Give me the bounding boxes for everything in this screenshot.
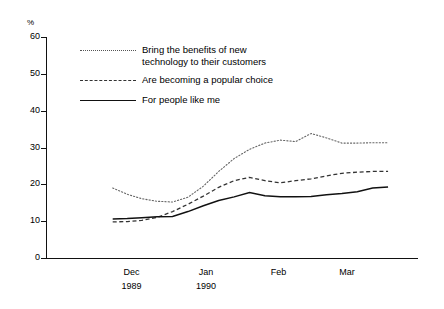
legend-swatch-dashed-icon [78,74,138,87]
legend-swatch-solid-icon [78,94,138,107]
legend-label-line1: Bring the benefits of new [142,44,247,55]
line-chart: % 0102030405060 Dec1989Jan1990FebMar Bri… [0,0,444,309]
legend-item: Are becoming a popular choice [78,74,273,87]
series-line-solid [113,187,388,219]
legend-label: Are becoming a popular choice [138,74,273,86]
series-line-dotted [113,134,388,203]
legend-label-line2: technology to their customers [142,56,266,67]
legend-item: For people like me [78,94,273,107]
legend-item: Bring the benefits of new technology to … [78,44,273,67]
legend-label: Bring the benefits of new technology to … [138,44,266,67]
legend-swatch-dotted-icon [78,44,138,57]
legend: Bring the benefits of new technology to … [78,44,273,114]
series-line-dashed [113,171,388,221]
legend-label: For people like me [138,94,220,106]
